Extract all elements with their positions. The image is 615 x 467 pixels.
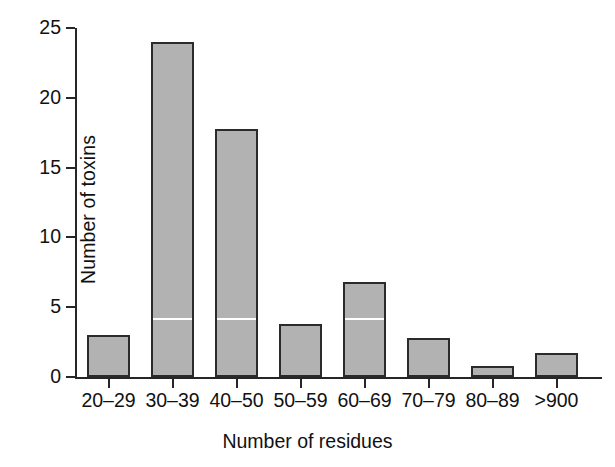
x-axis-tick-label: >900	[525, 389, 589, 412]
y-axis-tick: 10	[66, 236, 75, 238]
bar-scanline	[217, 318, 256, 320]
x-axis-tick-label: 40–50	[205, 389, 269, 412]
x-axis-line	[75, 377, 602, 379]
bar-scanline	[153, 318, 192, 320]
x-axis-tick	[300, 379, 302, 388]
bar	[471, 366, 514, 377]
y-axis-tick: 25	[66, 27, 75, 29]
bar	[343, 282, 386, 377]
x-axis-tick	[428, 379, 430, 388]
bar	[407, 338, 450, 377]
y-axis-tick-label: 5	[50, 295, 61, 318]
x-axis-tick-label: 80–89	[461, 389, 525, 412]
x-axis-tick	[556, 379, 558, 388]
y-axis-tick-label: 25	[39, 16, 61, 39]
y-axis-tick: 15	[66, 167, 75, 169]
bar-chart-figure: Number of toxins 0510152025 20–2930–3940…	[0, 0, 615, 467]
x-axis-tick	[172, 379, 174, 388]
x-axis-tick	[364, 379, 366, 388]
x-axis-tick-label: 20–29	[77, 389, 141, 412]
y-axis-tick-label: 15	[39, 156, 61, 179]
bar	[215, 129, 258, 377]
x-axis-tick	[236, 379, 238, 388]
bar	[87, 335, 130, 377]
y-axis-tick: 0	[66, 376, 75, 378]
y-axis-line	[75, 28, 77, 377]
x-axis-tick	[492, 379, 494, 388]
y-axis-tick-label: 10	[39, 225, 61, 248]
bar	[151, 42, 194, 377]
y-axis-tick-label: 20	[39, 86, 61, 109]
x-axis-tick	[108, 379, 110, 388]
x-axis-tick-label: 30–39	[141, 389, 205, 412]
y-axis-tick: 20	[66, 97, 75, 99]
x-axis-tick-label: 60–69	[333, 389, 397, 412]
bar	[279, 324, 322, 377]
plot-area: 0510152025	[75, 28, 602, 377]
y-axis-tick-label: 0	[50, 365, 61, 388]
x-axis-tick-label: 70–79	[397, 389, 461, 412]
y-axis-tick: 5	[66, 306, 75, 308]
x-axis-tick-label: 50–59	[269, 389, 333, 412]
bar	[535, 353, 578, 377]
x-axis-title: Number of residues	[0, 430, 615, 453]
bar-scanline	[345, 318, 384, 320]
